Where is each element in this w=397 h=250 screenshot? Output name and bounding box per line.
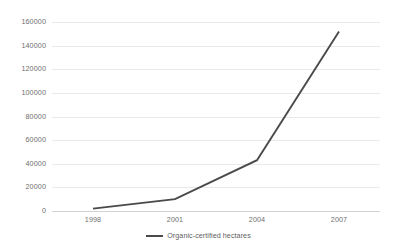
series-organic-certified-hectares	[52, 22, 380, 211]
y-axis-tick-label: 40000	[0, 160, 46, 167]
series-line-organic-certified-hectares	[93, 31, 339, 208]
plot-area	[52, 22, 380, 211]
x-axis-tick-label: 2001	[167, 216, 183, 223]
x-axis-tick-label: 2007	[331, 216, 347, 223]
legend-line-swatch	[146, 235, 163, 237]
x-axis-tick-label: 1998	[85, 216, 101, 223]
line-chart: 0200004000060000800001000001200001400001…	[0, 0, 397, 250]
y-axis-tick-label: 140000	[0, 42, 46, 49]
y-axis-tick-label: 80000	[0, 113, 46, 120]
y-axis-tick-label: 60000	[0, 137, 46, 144]
legend-item-label: Organic-certified hectares	[167, 232, 251, 239]
y-axis-tick-label: 160000	[0, 18, 46, 25]
y-axis-tick-label: 120000	[0, 66, 46, 73]
x-axis-tick-label: 2004	[249, 216, 265, 223]
y-axis-tick-label: 100000	[0, 89, 46, 96]
y-axis-tick-label: 0	[0, 207, 46, 214]
x-axis-line	[52, 211, 380, 212]
y-axis-tick-label: 20000	[0, 184, 46, 191]
chart-legend: Organic-certified hectares	[0, 232, 397, 239]
